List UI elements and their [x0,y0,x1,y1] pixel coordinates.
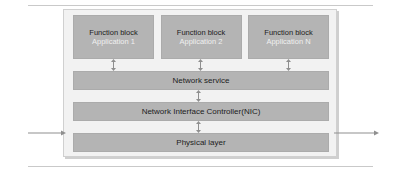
double-arrow-vertical-icon [110,59,117,71]
double-arrow-vertical-icon [195,90,202,102]
external-arrow-right-icon [334,128,379,138]
layer-label: Network Interface Controller(NIC) [142,108,261,116]
function-block-title: Function block [264,29,312,37]
layer-label: Network service [173,77,230,85]
layer-network-service: Network service [73,71,329,90]
layer-label: Physical layer [176,139,225,147]
function-block-title: Function block [177,29,225,37]
function-block-title: Function block [89,29,137,37]
application-row: Function block Application 1 Function bl… [73,15,329,59]
page-rule-top [28,5,373,6]
double-arrow-vertical-icon [195,121,202,133]
application-connectors [73,59,329,71]
layer-network-interface-controller: Network Interface Controller(NIC) [73,102,329,121]
function-block-subtitle: Application N [266,38,310,46]
function-block-application-2: Function block Application 2 [161,15,242,59]
function-block-subtitle: Application 2 [180,38,223,46]
function-block-subtitle: Application 1 [92,38,135,46]
double-arrow-vertical-icon [197,59,204,71]
system-frame: Function block Application 1 Function bl… [63,9,337,157]
function-block-application-n: Function block Application N [248,15,329,59]
external-arrow-left-icon [28,128,66,138]
layer-physical: Physical layer [73,133,329,152]
function-block-application-1: Function block Application 1 [73,15,154,59]
page-rule-bottom [28,166,373,167]
double-arrow-vertical-icon [285,59,292,71]
